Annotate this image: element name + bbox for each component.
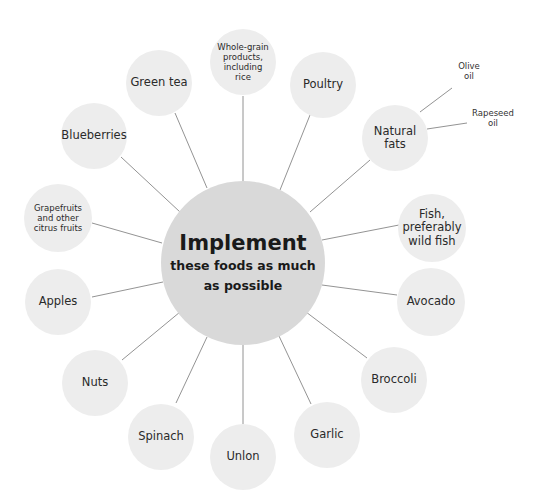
hub-title: Implement <box>179 232 306 255</box>
node-avocado: Avocado <box>397 268 465 336</box>
node-broccoli: Broccoli <box>361 347 427 413</box>
node-nuts: Nuts <box>62 350 128 416</box>
hub-subtitle-line1: these foods as much <box>170 258 315 274</box>
node-fish: Fish, preferably wild fish <box>398 194 466 262</box>
node-apples: Apples <box>25 269 91 335</box>
hub-subtitle-line2: as possible <box>204 278 283 294</box>
central-hub: Implement these foods as much as possibl… <box>161 181 325 345</box>
node-poultry: Poultry <box>290 52 356 118</box>
node-garlic: Garlic <box>294 402 360 468</box>
node-blueberries: Blueberries <box>61 103 127 169</box>
node-green-tea: Green tea <box>126 50 192 116</box>
node-grapefruits: Grapefruits and other citrus fruits <box>24 184 92 252</box>
sub-node-rapeseed-oil: Rapeseed oil <box>468 108 518 128</box>
node-spinach: Spinach <box>128 404 194 470</box>
node-onion: Unlon <box>210 424 276 490</box>
node-whole-grain: Whole-grain products, including rice <box>210 29 276 95</box>
sub-node-olive-oil: Olive oil <box>452 61 486 81</box>
node-natural-fats: Natural fats <box>362 105 428 171</box>
